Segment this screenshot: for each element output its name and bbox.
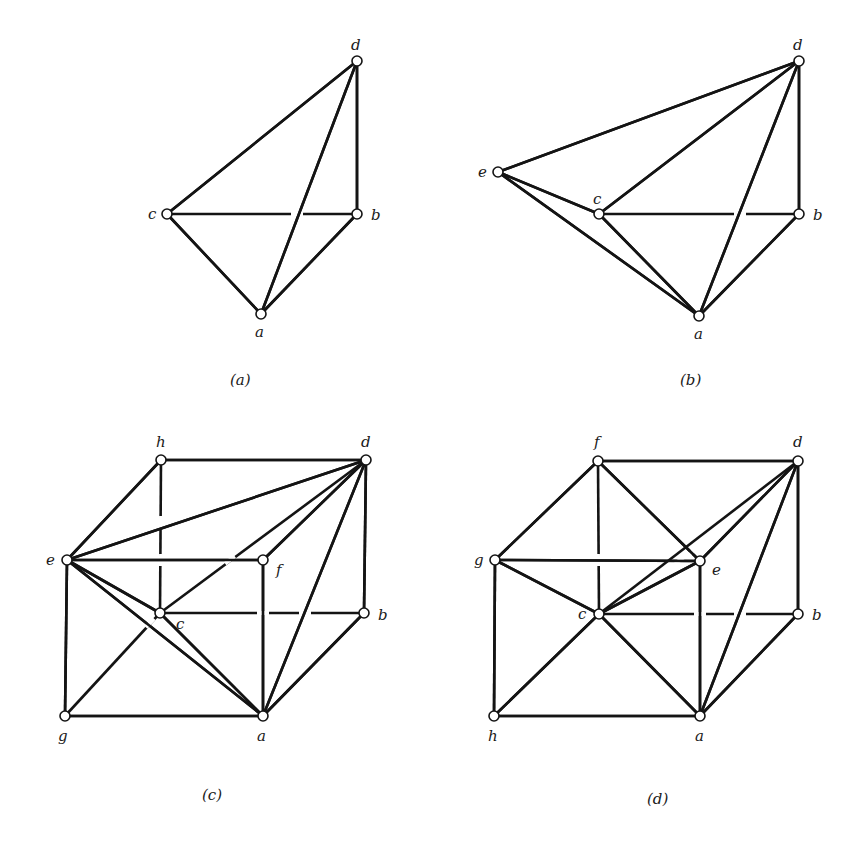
vertex-label: b — [813, 206, 823, 224]
vertex-label: e — [712, 561, 721, 579]
diagram-caption: (a) — [230, 371, 251, 389]
diagram-caption: (c) — [202, 786, 222, 804]
vertex-marker-icon — [352, 56, 362, 66]
edge-front-g-e — [495, 560, 700, 561]
vertex-label: a — [694, 325, 703, 343]
vertex-marker-icon — [162, 209, 172, 219]
vertex-label: e — [46, 551, 55, 569]
vertex-label: a — [255, 323, 264, 341]
vertex-label: b — [371, 206, 381, 224]
vertex-marker-icon — [493, 167, 503, 177]
vertex-label: g — [474, 551, 484, 569]
vertex-marker-icon — [793, 456, 803, 466]
vertex-marker-icon — [60, 711, 70, 721]
vertex-d: d — [793, 433, 803, 466]
vertex-marker-icon — [258, 711, 268, 721]
vertex-label: a — [695, 727, 704, 745]
vertex-marker-icon — [694, 311, 704, 321]
edge-h-c — [160, 460, 161, 613]
vertex-label: e — [478, 163, 487, 181]
vertex-d: d — [351, 36, 362, 66]
vertex-label: d — [361, 433, 371, 451]
vertex-label: h — [488, 727, 498, 745]
vertex-label: g — [58, 727, 68, 745]
vertex-h: h — [488, 711, 499, 745]
vertex-label: a — [257, 727, 266, 745]
vertex-a: a — [694, 311, 704, 343]
vertex-label: c — [593, 190, 602, 208]
edge-front-g-h — [494, 560, 495, 716]
vertex-marker-icon — [794, 56, 804, 66]
vertex-marker-icon — [361, 455, 371, 465]
vertex-marker-icon — [359, 608, 369, 618]
vertex-marker-icon — [258, 555, 268, 565]
vertex-marker-icon — [155, 608, 165, 618]
vertex-label: c — [148, 205, 157, 223]
diagram-caption: (d) — [647, 790, 668, 808]
vertex-marker-icon — [489, 711, 499, 721]
vertex-marker-icon — [593, 456, 603, 466]
vertex-d: d — [793, 36, 804, 66]
vertex-marker-icon — [352, 209, 362, 219]
vertex-label: c — [176, 615, 185, 633]
vertex-h: h — [156, 433, 166, 465]
vertex-label: d — [351, 36, 361, 54]
vertex-label: d — [793, 36, 803, 54]
diagram-caption: (b) — [680, 371, 701, 389]
vertex-label: b — [378, 606, 388, 624]
figure-canvas: dcba(a) decba(b) hdefcbga(c) fdgecbha(d) — [0, 0, 857, 848]
edge-f-c — [598, 461, 599, 614]
vertex-marker-icon — [594, 209, 604, 219]
vertex-d: d — [361, 433, 371, 465]
vertex-a: a — [695, 711, 705, 745]
vertex-marker-icon — [256, 309, 266, 319]
vertex-marker-icon — [490, 555, 500, 565]
vertex-label: b — [812, 606, 822, 624]
background — [0, 0, 857, 848]
vertex-label: d — [793, 433, 803, 451]
vertex-marker-icon — [794, 209, 804, 219]
vertex-label: c — [578, 605, 587, 623]
vertex-marker-icon — [594, 609, 604, 619]
vertex-marker-icon — [62, 555, 72, 565]
vertex-label: h — [156, 433, 166, 451]
vertex-marker-icon — [695, 711, 705, 721]
vertex-marker-icon — [793, 609, 803, 619]
vertex-marker-icon — [156, 455, 166, 465]
vertex-marker-icon — [695, 556, 705, 566]
